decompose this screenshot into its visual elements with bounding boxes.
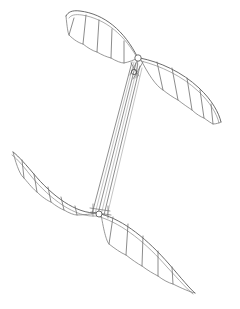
mast-rod [104, 66, 140, 215]
lower-right-wing-leading-edge [101, 214, 195, 293]
wing-rib [142, 236, 143, 266]
wing-rib [126, 224, 128, 255]
wing-rib [69, 18, 74, 35]
mast-column [92, 62, 142, 216]
upper-left-wing-leading-edge-inner [69, 15, 139, 61]
wing-rib [75, 206, 77, 215]
mast-rod [101, 64, 138, 215]
lower-right-wing-ribs [109, 217, 173, 284]
upper-left-wing-leading-edge [66, 11, 138, 58]
lower-left-wing-leading-edge [13, 152, 97, 213]
wing-rib [172, 267, 173, 284]
upper-hub [135, 55, 141, 61]
ornithopter-drawing [0, 0, 240, 309]
upper-left-wing [66, 11, 139, 63]
wing-rib [111, 29, 112, 58]
wing-rib [200, 90, 204, 118]
upper-left-wing-ribs [69, 15, 124, 63]
wing-rib [97, 20, 99, 52]
lower-hub [96, 211, 102, 217]
upper-right-wing-leading-edge [140, 58, 221, 122]
upper-right-wing-membrane [140, 58, 221, 124]
wing-rib [172, 68, 178, 100]
lower-right-wing [100, 214, 195, 294]
figure-canvas [0, 0, 240, 309]
wing-rib [187, 78, 192, 110]
lower-left-wing-ribs [22, 160, 77, 215]
mast-rod [95, 62, 134, 214]
mast-rod [92, 62, 132, 214]
lower-left-wing [12, 152, 97, 216]
wing-rib [61, 197, 64, 210]
lower-left-wing-membrane [13, 152, 97, 215]
lower-right-wing-leading-edge-inner [100, 217, 193, 294]
lower-right-wing-membrane [101, 214, 195, 293]
wing-rib [83, 15, 86, 44]
upper-right-wing [140, 58, 221, 124]
upper-right-wing-leading-edge-inner [141, 61, 219, 123]
mast-rod [98, 63, 136, 214]
